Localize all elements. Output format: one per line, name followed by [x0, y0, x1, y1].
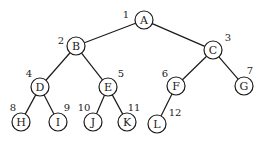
tree-node-l: L: [148, 115, 166, 133]
order-label-3: 3: [225, 32, 231, 43]
edge-b-e: [82, 53, 103, 80]
order-label-12: 12: [169, 107, 182, 118]
order-label-4: 4: [26, 68, 32, 79]
tree-node-a: A: [135, 11, 153, 29]
node-label: H: [16, 116, 26, 129]
node-label: C: [209, 44, 217, 57]
tree-node-b: B: [67, 37, 85, 55]
node-label: G: [240, 80, 249, 93]
order-label-2: 2: [58, 35, 64, 46]
edge-a-b: [84, 23, 135, 43]
tree-node-d: D: [31, 78, 49, 96]
order-label-5: 5: [118, 68, 124, 79]
tree-node-j: J: [84, 113, 102, 131]
node-label: E: [104, 81, 112, 94]
tree-node-c: C: [204, 41, 222, 59]
tree-node-h: H: [12, 113, 30, 131]
edge-c-g: [219, 57, 238, 79]
edge-c-f: [182, 56, 206, 79]
node-label: J: [90, 116, 95, 129]
tree-node-k: K: [118, 113, 136, 131]
edge-d-h: [25, 95, 35, 114]
node-label: B: [72, 40, 80, 53]
binary-tree-diagram: ABCDEFGHIJKL 123456789101112: [0, 0, 265, 144]
tree-node-e: E: [99, 78, 117, 96]
node-label: L: [153, 118, 161, 131]
order-label-1: 1: [123, 9, 129, 20]
order-label-10: 10: [78, 102, 91, 113]
node-label: I: [56, 116, 60, 129]
order-label-11: 11: [128, 102, 141, 113]
node-label: F: [172, 80, 180, 93]
node-label: A: [139, 14, 149, 27]
order-label-6: 6: [162, 68, 168, 79]
tree-node-g: G: [235, 77, 253, 95]
tree-nodes: ABCDEFGHIJKL: [12, 11, 253, 133]
node-label: D: [36, 81, 45, 94]
edge-e-k: [112, 95, 122, 114]
edge-e-j: [97, 95, 105, 113]
order-label-7: 7: [247, 65, 253, 76]
edge-a-c: [152, 24, 204, 47]
tree-node-f: F: [167, 77, 185, 95]
node-label: K: [123, 116, 132, 129]
edge-d-i: [44, 95, 54, 114]
order-label-8: 8: [10, 102, 16, 113]
tree-node-i: I: [49, 113, 67, 131]
edge-b-d: [46, 53, 70, 80]
order-label-9: 9: [64, 102, 70, 113]
